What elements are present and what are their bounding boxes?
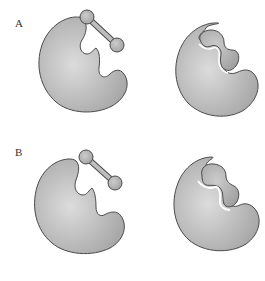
panel-b-enzyme-unbound [35, 159, 125, 254]
enzyme-diagram [0, 0, 265, 281]
panel-a-substrate [80, 10, 124, 52]
panel-a-enzyme-bound [176, 23, 258, 116]
panel-b-enzyme-bound [174, 157, 259, 251]
panel-a-enzyme-unbound [39, 17, 127, 112]
panel-b-substrate [79, 150, 122, 190]
